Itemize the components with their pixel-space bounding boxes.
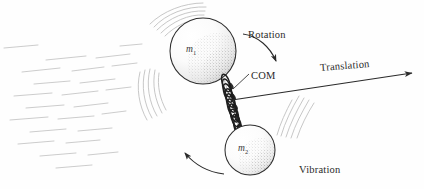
motion-streaks-right: [277, 96, 314, 138]
com-leader-line: [233, 74, 249, 89]
mass-2-symbol: m: [238, 143, 245, 153]
mass-1-sphere: [170, 18, 247, 93]
com-label: COM: [251, 70, 276, 81]
mass-1-label: m1: [186, 44, 197, 56]
vibration-label: Vibration: [299, 164, 340, 175]
mass-2-label: m2: [238, 143, 249, 155]
motion-field-left: [4, 44, 142, 168]
mass-2-subscript: 2: [245, 148, 248, 155]
rotation-label: Rotation: [248, 29, 286, 40]
mass-2-sphere: [225, 125, 283, 182]
mass-1-symbol: m: [186, 44, 193, 54]
physics-diagram: Rotation Translation COM Vibration m1 m2: [0, 0, 424, 189]
rotation-arc-bottom: [185, 153, 224, 174]
diagram-canvas: [0, 0, 424, 189]
mass-1-subscript: 1: [193, 49, 196, 56]
motion-streaks-left: [138, 69, 166, 120]
